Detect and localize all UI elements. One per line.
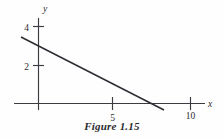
x-axis-label: x <box>207 99 213 109</box>
y-axis-label: y <box>42 4 48 14</box>
figure-caption: Figure 1.15 <box>0 120 224 132</box>
y-tick-label-4: 4 <box>24 23 29 33</box>
y-tick-label-2: 2 <box>24 62 29 72</box>
coordinate-plot: 4 2 5 10 y x <box>0 0 224 139</box>
figure-container: 4 2 5 10 y x Figure 1.15 <box>0 0 224 139</box>
plotted-line <box>21 37 164 110</box>
